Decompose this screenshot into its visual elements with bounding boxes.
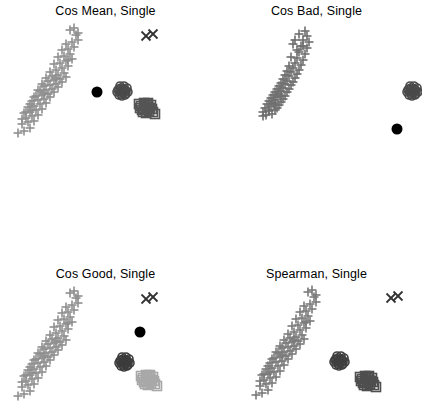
plus-marker (36, 100, 45, 109)
plus-marker (70, 306, 79, 315)
plus-marker (68, 318, 77, 327)
plus-marker (74, 292, 83, 301)
x-marker (394, 292, 403, 301)
plus-marker (62, 73, 71, 82)
plus-marker (274, 362, 283, 371)
plus-marker (22, 108, 31, 117)
plus-marker (293, 70, 302, 79)
plus-marker (302, 307, 311, 316)
plus-marker (54, 316, 63, 325)
plus-marker (252, 391, 261, 400)
plus-marker (288, 322, 297, 331)
scatter-panel-spearman-single: Spearman, Single (211, 208, 422, 416)
black-dot-marker (92, 87, 103, 98)
plus-marker (300, 302, 309, 311)
plus-marker (22, 371, 31, 380)
plus-marker (293, 54, 302, 63)
plus-marker (296, 308, 305, 317)
plus-marker (72, 294, 81, 303)
plus-marker (72, 31, 81, 40)
plus-marker (301, 50, 310, 59)
plus-marker (58, 309, 67, 318)
plus-marker (62, 57, 71, 66)
plus-marker (52, 66, 61, 75)
plus-marker (308, 305, 317, 314)
plus-marker (58, 64, 67, 73)
plus-marker (268, 364, 277, 373)
plus-marker (293, 46, 302, 55)
plus-marker (68, 38, 77, 47)
scatter-canvas-cos-bad-single (211, 0, 422, 208)
plus-marker (291, 74, 300, 83)
plus-marker (66, 289, 75, 298)
plus-marker (46, 68, 55, 77)
plus-marker (62, 320, 71, 329)
plot-area-cos-bad-single (211, 0, 422, 208)
plus-marker (46, 344, 55, 353)
plus-marker (42, 362, 51, 371)
plus-marker (305, 38, 314, 47)
plus-marker (58, 46, 67, 55)
plus-marker (30, 102, 39, 111)
plus-marker (306, 317, 315, 326)
plus-marker (64, 56, 73, 65)
plus-marker (14, 392, 23, 401)
plus-marker (64, 319, 73, 328)
plus-marker (34, 111, 43, 120)
plus-marker (302, 318, 311, 327)
plus-marker (70, 24, 79, 33)
plus-marker (294, 321, 303, 330)
plus-marker (66, 50, 75, 59)
plus-marker (276, 353, 285, 362)
panel-title-cos-mean-single: Cos Mean, Single (0, 4, 211, 18)
panel-title-spearman-single: Spearman, Single (211, 267, 422, 281)
plus-marker (287, 53, 296, 62)
plus-marker (310, 293, 319, 302)
plus-marker (280, 361, 289, 370)
plus-marker (306, 300, 315, 309)
black-dot-marker (392, 124, 403, 135)
plus-marker (298, 314, 307, 323)
panel-title-cos-bad-single: Cos Bad, Single (211, 4, 422, 18)
plus-marker (284, 343, 293, 352)
plus-marker (290, 328, 299, 337)
plus-marker (295, 66, 304, 75)
plus-marker (36, 87, 45, 96)
plus-marker (60, 69, 69, 78)
scatter-panel-cos-mean-single: Cos Mean, Single (0, 0, 211, 208)
plus-marker (299, 56, 308, 65)
plus-marker (32, 92, 41, 101)
x-marker (149, 30, 158, 39)
scatter-canvas-spearman-single (211, 208, 422, 416)
plot-area-cos-good-single (0, 208, 211, 416)
plot-area-spearman-single (211, 208, 422, 416)
plus-marker (268, 379, 277, 388)
plus-marker (46, 331, 55, 340)
plus-marker (298, 331, 307, 340)
plus-marker (303, 44, 312, 53)
plus-marker (58, 327, 67, 336)
plus-marker (312, 291, 321, 300)
panel-title-cos-good-single: Cos Good, Single (0, 267, 211, 281)
plus-marker (260, 370, 269, 379)
x-marker (149, 293, 158, 302)
plus-marker (64, 45, 73, 54)
plus-marker (30, 380, 39, 389)
plus-marker (300, 319, 309, 328)
plus-marker (70, 287, 79, 296)
plus-marker (62, 336, 71, 345)
plus-marker (36, 350, 45, 359)
plus-marker (38, 368, 47, 377)
plus-marker (30, 365, 39, 374)
plus-marker (304, 312, 313, 321)
plus-marker (286, 334, 295, 343)
plus-marker (276, 367, 285, 376)
plus-marker (46, 81, 55, 90)
plus-marker (284, 330, 293, 339)
plus-marker (20, 109, 29, 118)
plus-marker (60, 332, 69, 341)
plus-marker (295, 48, 304, 57)
plus-marker (74, 29, 83, 38)
plus-marker (60, 52, 69, 61)
scatter-panel-cos-bad-single: Cos Bad, Single (211, 0, 422, 208)
